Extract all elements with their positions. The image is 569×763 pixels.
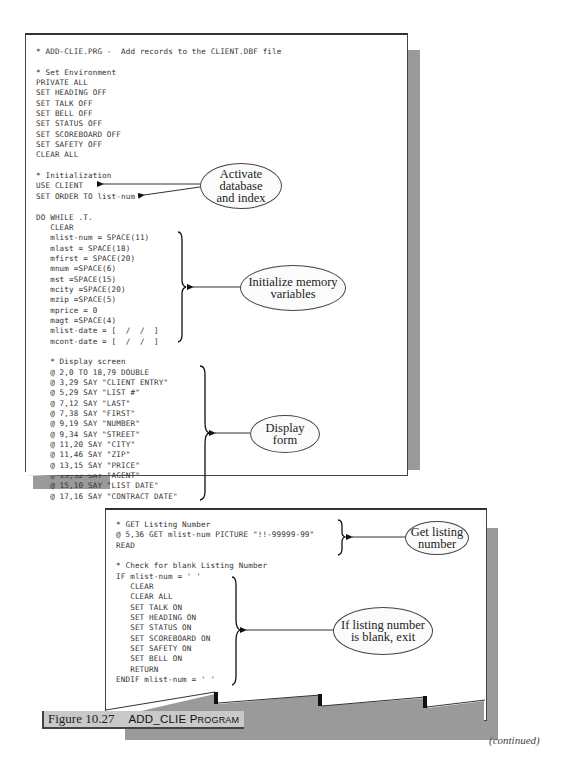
page2-code-line: SET TALK ON [116,603,314,613]
code-listing-page-2: * GET Listing Number@ 5,36 GET mlist-num… [116,520,314,686]
page1-code-line: @ 7,38 SAY "FIRST" [36,409,282,419]
page1-code-line: @ 9,19 SAY "NUMBER" [36,419,282,429]
page1-code-line: mprice = 0 [36,306,282,316]
page1-code-line: mlist-date = [ / / ] [36,326,282,336]
page1-code-line: @ 2,0 TO 18,79 DOUBLE [36,368,282,378]
page2-code-line: RETURN [116,665,314,675]
page2-code-line: SET STATUS ON [116,623,314,633]
callout-get-listing: Get listing number [405,521,469,555]
page2-code-line [116,551,314,561]
code-listing-page-1: * ADD-CLIE.PRG - Add records to the CLIE… [36,47,282,502]
page2-code-line: SET BELL ON [116,654,314,664]
figure-title: ADD_CLIE PROGRAM [128,713,239,725]
page1-code-line: * Set Environment [36,68,282,78]
page2-code-line: SET SCOREBOARD ON [116,634,314,644]
page2-code-line: CLEAR ALL [116,592,314,602]
page1-code-line: mcont-date = [ / / ] [36,337,282,347]
page1-code-line: @ 7,12 SAY "LAST" [36,399,282,409]
page1-code-line: @ 11,46 SAY "ZIP" [36,450,282,460]
page1-code-line: DO WHILE .T. [36,213,282,223]
callout-get-listing-text: Get listing number [409,526,465,550]
page1-code-line: magt =SPACE(4) [36,316,282,326]
page1-code-line: SET HEADING OFF [36,88,282,98]
page1-code-line: mfirst = SPACE(20) [36,254,282,264]
page1-code-line: mlast = SPACE(18) [36,244,282,254]
page1-code-line: @ 17,16 SAY "CONTRACT DATE" [36,492,282,502]
callout-display-text: Display form [263,422,307,446]
page1-code-line: @ 13,32 SAY "AGENT" [36,471,282,481]
callout-initialize-variables: Initialize memory variables [240,265,346,311]
page2-code-line: ENDIF mlist-num = ' ' [116,675,314,685]
page1-code-line [36,57,282,67]
page1-code-line: @ 9,34 SAY "STREET" [36,430,282,440]
page1-code-line: @ 11,20 SAY "CITY" [36,440,282,450]
page1-code-line: CLEAR [36,223,282,233]
page1-code-line: SET TALK OFF [36,99,282,109]
figure-title-smallcaps: ROGRAM [198,715,240,725]
page2-code-line: * Check for blank Listing Number [116,561,314,571]
page1-code-line: @ 13,15 SAY "PRICE" [36,461,282,471]
page1-code-line: * ADD-CLIE.PRG - Add records to the CLIE… [36,47,282,57]
page1-code-line: CLEAR ALL [36,150,282,160]
page1-code-line: mnum =SPACE(6) [36,264,282,274]
page1-code-line: SET STATUS OFF [36,119,282,129]
page2-code-line: SET SAFETY ON [116,644,314,654]
figure-title-main: ADD_CLIE P [128,713,197,725]
callout-display-form: Display form [250,415,320,453]
page1-code-line: SET SCOREBOARD OFF [36,130,282,140]
page2-code-line: SET HEADING ON [116,613,314,623]
figure-caption: Figure 10.27 ADD_CLIE PROGRAM [42,711,244,729]
page2-code-line: IF mlist-num = ' ' [116,572,314,582]
callout-activate-text: Activate database and index [209,168,273,204]
page2-code-line: @ 5,36 GET mlist-num PICTURE "!!-99999-9… [116,530,314,540]
figure-number: Figure 10.27 [48,711,114,727]
page1-code-line: * Display screen [36,357,282,367]
code-page-1: * ADD-CLIE.PRG - Add records to the CLIE… [25,33,408,476]
page2-code-line: READ [116,541,314,551]
callout-initialize-text: Initialize memory variables [245,276,341,300]
callout-activate-database: Activate database and index [200,163,282,209]
page1-code-line: @ 3,29 SAY "CLIENT ENTRY" [36,378,282,388]
page1-code-line: @ 15,10 SAY "LIST DATE" [36,481,282,491]
page1-code-line: SET BELL OFF [36,109,282,119]
page1-code-line: SET SAFETY OFF [36,140,282,150]
page1-code-line [36,347,282,357]
callout-blank-exit-text: If listing number is blank, exit [341,619,425,643]
callout-blank-exit: If listing number is blank, exit [333,607,433,655]
page2-code-line: CLEAR [116,582,314,592]
page2-code-line: * GET Listing Number [116,520,314,530]
continued-note: (continued) [489,734,540,746]
page1-code-line: mlist-num = SPACE(11) [36,233,282,243]
page1-shadow-right [408,50,420,470]
page1-code-line: @ 5,29 SAY "LIST #" [36,388,282,398]
page1-code-line: PRIVATE ALL [36,78,282,88]
